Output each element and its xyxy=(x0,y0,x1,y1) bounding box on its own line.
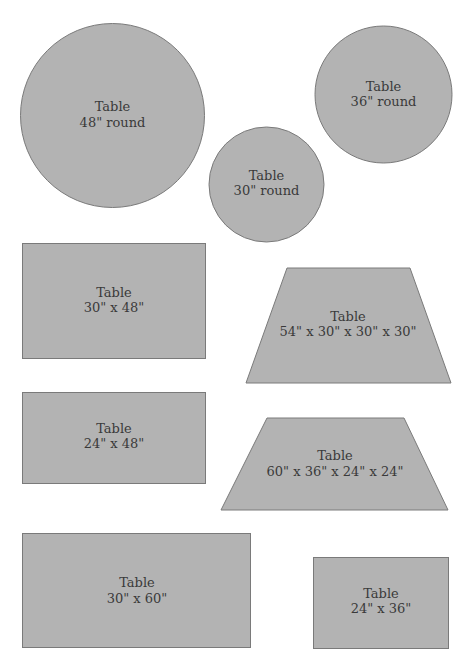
table-size: 30" round xyxy=(234,183,300,198)
table-title: Table xyxy=(249,168,285,183)
table-size: 36" round xyxy=(351,94,417,109)
table-title: Table xyxy=(330,309,366,324)
table-shapes-canvas: Table 48" round Table 36" round Table 30… xyxy=(0,0,472,670)
table-rect-24x48: Table 24" x 48" xyxy=(23,393,206,484)
table-title: Table xyxy=(96,285,132,300)
table-rect-30x60: Table 30" x 60" xyxy=(23,534,251,648)
table-title: Table xyxy=(95,99,131,114)
table-size: 30" x 48" xyxy=(84,300,145,315)
table-rect-30x48: Table 30" x 48" xyxy=(23,244,206,359)
table-rect-24x36: Table 24" x 36" xyxy=(314,558,449,649)
table-size: 54" x 30" x 30" x 30" xyxy=(280,324,417,339)
table-round-36: Table 36" round xyxy=(315,26,452,163)
table-title: Table xyxy=(317,448,353,463)
table-round-30: Table 30" round xyxy=(209,127,324,242)
table-size: 24" x 36" xyxy=(351,601,412,616)
table-size: 30" x 60" xyxy=(107,591,168,606)
table-trapezoid-60: Table 60" x 36" x 24" x 24" xyxy=(221,418,448,510)
table-title: Table xyxy=(119,575,155,590)
table-trapezoid-54: Table 54" x 30" x 30" x 30" xyxy=(246,268,451,383)
table-size: 60" x 36" x 24" x 24" xyxy=(267,464,404,479)
table-size: 48" round xyxy=(80,115,146,130)
table-title: Table xyxy=(96,421,132,436)
table-size: 24" x 48" xyxy=(84,436,145,451)
table-title: Table xyxy=(363,586,399,601)
table-title: Table xyxy=(366,79,402,94)
table-round-48: Table 48" round xyxy=(21,24,205,208)
